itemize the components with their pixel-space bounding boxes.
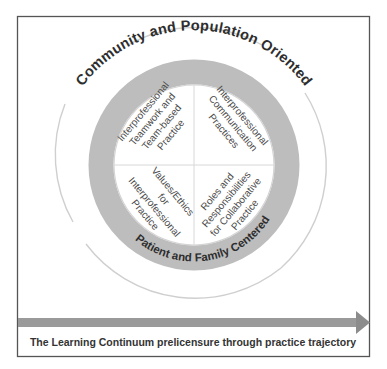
ipec-competency-diagram: Community and Population Oriented Patien…	[0, 0, 387, 369]
arrow-shaft	[18, 318, 358, 327]
learning-continuum-caption: The Learning Continuum prelicensure thro…	[30, 336, 356, 348]
